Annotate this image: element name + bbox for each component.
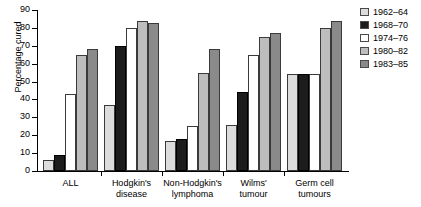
bar-group — [226, 10, 281, 171]
legend-item-1983–85[interactable]: 1983–85 — [360, 58, 408, 70]
bar-all-1968–70 — [54, 155, 65, 171]
legend-label: 1974–76 — [373, 33, 408, 43]
y-axis-tick — [32, 135, 37, 136]
y-axis-tick-label: 0 — [4, 166, 30, 175]
x-axis-label-line: tumours — [270, 189, 360, 200]
x-axis-group-separator — [101, 171, 102, 176]
y-axis-tick-label: 80 — [4, 23, 30, 32]
y-axis-tick — [32, 117, 37, 118]
bar-group — [104, 10, 159, 171]
bar-hodgkin-s-disease-1968–70 — [115, 46, 126, 171]
legend-swatch-icon — [360, 60, 369, 68]
bar-germ-cell-tumours-1974–76 — [309, 74, 320, 171]
legend-swatch-icon — [360, 8, 369, 16]
chart-legend: 1962–641968–701974–761980–821983–85 — [360, 6, 408, 71]
bar-all-1962–64 — [43, 160, 54, 171]
y-axis-tick-label: 50 — [4, 77, 30, 86]
bar-hodgkin-s-disease-1983–85 — [148, 23, 159, 171]
y-axis-tick — [32, 153, 37, 154]
bar-group — [287, 10, 342, 171]
legend-item-1962–64[interactable]: 1962–64 — [360, 6, 408, 18]
plot-area: 0102030405060708090 — [37, 10, 348, 171]
bar-wilms-tumour-1962–64 — [226, 125, 237, 172]
legend-swatch-icon — [360, 21, 369, 29]
x-axis-line — [37, 171, 349, 172]
x-axis-group-separator — [223, 171, 224, 176]
x-axis-group-label: Germ celltumours — [270, 178, 360, 200]
bar-all-1974–76 — [65, 94, 76, 171]
legend-label: 1983–85 — [373, 59, 408, 69]
y-axis-tick — [32, 99, 37, 100]
bar-non-hodgkin-s-lymphoma-1983–85 — [209, 49, 220, 171]
bar-wilms-tumour-1983–85 — [270, 33, 281, 171]
bar-all-1980–82 — [76, 55, 87, 171]
y-axis-tick — [32, 46, 37, 47]
bar-group — [43, 10, 98, 171]
y-axis-tick-label: 30 — [4, 112, 30, 121]
legend-item-1980–82[interactable]: 1980–82 — [360, 45, 408, 57]
y-axis-tick — [32, 171, 37, 172]
y-axis-tick-label: 70 — [4, 41, 30, 50]
bar-wilms-tumour-1974–76 — [248, 55, 259, 171]
y-axis-tick-label: 60 — [4, 59, 30, 68]
y-axis-tick-label: 10 — [4, 148, 30, 157]
bar-germ-cell-tumours-1962–64 — [287, 74, 298, 171]
bar-hodgkin-s-disease-1962–64 — [104, 105, 115, 171]
y-axis-tick — [32, 64, 37, 65]
y-axis-tick-label: 40 — [4, 94, 30, 103]
legend-label: 1980–82 — [373, 46, 408, 56]
bar-germ-cell-tumours-1980–82 — [320, 28, 331, 171]
legend-swatch-icon — [360, 47, 369, 55]
bar-wilms-tumour-1980–82 — [259, 37, 270, 171]
y-axis-tick — [32, 10, 37, 11]
bar-germ-cell-tumours-1983–85 — [331, 21, 342, 171]
bar-hodgkin-s-disease-1974–76 — [126, 28, 137, 171]
legend-item-1968–70[interactable]: 1968–70 — [360, 19, 408, 31]
y-axis-tick — [32, 82, 37, 83]
legend-item-1974–76[interactable]: 1974–76 — [360, 32, 408, 44]
bar-wilms-tumour-1968–70 — [237, 92, 248, 171]
bar-group — [165, 10, 220, 171]
bar-germ-cell-tumours-1968–70 — [298, 74, 309, 171]
chart-root: Percentage cured 0102030405060708090 196… — [0, 0, 421, 207]
x-axis-group-separator — [284, 171, 285, 176]
bar-hodgkin-s-disease-1980–82 — [137, 21, 148, 171]
bar-all-1983–85 — [87, 49, 98, 171]
bar-non-hodgkin-s-lymphoma-1974–76 — [187, 126, 198, 171]
y-axis-tick — [32, 28, 37, 29]
y-axis-tick-label: 90 — [4, 5, 30, 14]
x-axis-label-line: Germ cell — [270, 178, 360, 189]
y-axis-tick-label: 20 — [4, 130, 30, 139]
x-axis-group-separator — [162, 171, 163, 176]
legend-swatch-icon — [360, 34, 369, 42]
bar-non-hodgkin-s-lymphoma-1968–70 — [176, 139, 187, 171]
bar-non-hodgkin-s-lymphoma-1980–82 — [198, 73, 209, 171]
legend-label: 1968–70 — [373, 20, 408, 30]
bar-non-hodgkin-s-lymphoma-1962–64 — [165, 141, 176, 171]
legend-label: 1962–64 — [373, 7, 408, 17]
